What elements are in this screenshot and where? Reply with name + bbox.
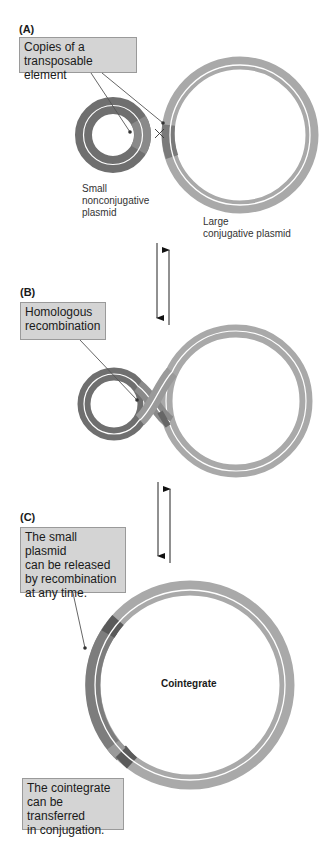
- large-plasmid-a: [168, 63, 312, 207]
- equilibrium-arrows-ab: [157, 243, 169, 325]
- equilibrium-arrows-bc: [158, 482, 170, 563]
- cointegrate-plasmid: [93, 588, 287, 782]
- small-plasmid-a: [84, 106, 143, 165]
- leader-line-c: [73, 593, 87, 650]
- plasmid-diagram: [0, 0, 329, 842]
- figure-eight-b: [84, 331, 306, 471]
